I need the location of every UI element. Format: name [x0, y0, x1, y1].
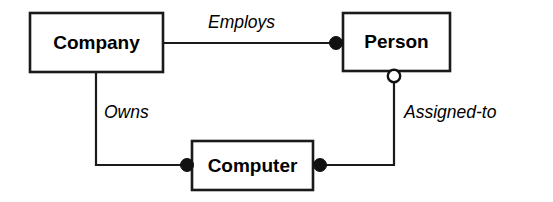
- filled-circle-marker-employs-person: [330, 37, 343, 50]
- entity-label-company: Company: [53, 32, 140, 53]
- entity-label-person: Person: [364, 31, 428, 52]
- relationship-label-assigned-to: Assigned-to: [403, 102, 497, 122]
- entity-person[interactable]: Person: [343, 13, 450, 71]
- filled-circle-marker-assigned-to-computer: [314, 159, 327, 172]
- diagram-canvas: Company Person Computer Employs Owns Ass…: [0, 0, 553, 202]
- relationship-label-owns: Owns: [104, 102, 149, 122]
- entity-label-computer: Computer: [208, 155, 298, 176]
- entity-relationship-diagram: Company Person Computer Employs Owns Ass…: [0, 0, 553, 202]
- entity-computer[interactable]: Computer: [192, 141, 313, 190]
- relationship-line-assigned-to: [320, 76, 394, 165]
- relationship-label-employs: Employs: [208, 12, 275, 32]
- filled-circle-marker-owns-computer: [181, 159, 194, 172]
- hollow-circle-marker-assigned-to-person: [388, 70, 400, 82]
- entity-company[interactable]: Company: [30, 13, 163, 72]
